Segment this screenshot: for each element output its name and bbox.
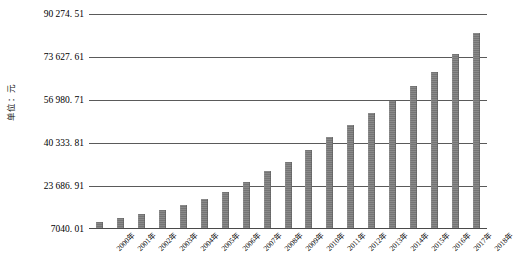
x-axis-tick-labels: 2000年2001年2002年2003年2004年2005年2006年2007年…: [89, 231, 487, 271]
x-axis-tick-label: 2004年: [199, 231, 221, 253]
x-axis-tick-label: 2014年: [408, 231, 430, 253]
bar: [201, 199, 208, 228]
bar: [285, 162, 292, 228]
x-axis-tick-label: 2008年: [282, 231, 304, 253]
x-axis-tick-label: 2015年: [429, 231, 451, 253]
bar: [410, 86, 417, 228]
bar: [305, 150, 312, 228]
x-axis-tick-label: 2000年: [115, 231, 137, 253]
x-axis-tick-label: 2016年: [450, 231, 472, 253]
x-axis-tick-label: 2010年: [324, 231, 346, 253]
bar: [117, 218, 124, 228]
x-axis-tick-label: 2018年: [492, 231, 514, 253]
bar: [452, 54, 459, 228]
x-axis-tick-label: 2006年: [241, 231, 263, 253]
x-axis-tick-label: 2003年: [178, 231, 200, 253]
bar: [264, 171, 271, 228]
y-axis-tick-label: 56 980. 71: [12, 95, 84, 105]
bar: [180, 205, 187, 228]
x-axis-tick-label: 2001年: [136, 231, 158, 253]
bar: [222, 192, 229, 228]
bar: [347, 125, 354, 228]
bar: [326, 137, 333, 228]
bar: [389, 101, 396, 228]
y-axis-tick-label: 23 686. 91: [12, 181, 84, 191]
bar-series: [89, 14, 487, 229]
x-axis-tick-label: 2005年: [220, 231, 242, 253]
bar: [159, 210, 166, 228]
x-axis-tick-label: 2017年: [471, 231, 493, 253]
x-axis-tick-label: 2007年: [262, 231, 284, 253]
x-axis-tick-label: 2009年: [303, 231, 325, 253]
x-axis-tick-label: 2002年: [157, 231, 179, 253]
y-axis-tick-label: 40 333. 81: [12, 138, 84, 148]
y-axis-tick-label: 90 274. 51: [12, 9, 84, 19]
y-axis-tick-label: 7040. 01: [12, 224, 84, 234]
bar: [138, 214, 145, 228]
x-axis-tick-label: 2011年: [345, 231, 367, 253]
x-axis-tick-label: 2013年: [387, 231, 409, 253]
x-axis-baseline: [89, 228, 487, 229]
y-axis-tick-label: 73 627. 61: [12, 52, 84, 62]
bar: [473, 33, 480, 228]
plot-area: [89, 14, 487, 229]
x-axis-tick-label: 2012年: [366, 231, 388, 253]
bar: [368, 113, 375, 228]
bar: [431, 72, 438, 228]
y-axis-tick-labels: 90 274. 5173 627. 6156 980. 7140 333. 81…: [12, 0, 84, 271]
bar: [243, 182, 250, 228]
